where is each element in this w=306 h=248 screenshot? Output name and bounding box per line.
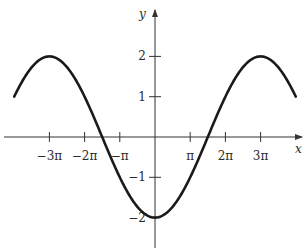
- x-axis-label: x: [295, 142, 302, 156]
- x-tick-label: 2π: [218, 149, 234, 163]
- x-tick-label: −2π: [72, 149, 98, 163]
- y-tick-label: 2: [138, 49, 146, 63]
- x-tick-label: −3π: [37, 149, 63, 163]
- x-tick-label: 3π: [253, 149, 269, 163]
- y-axis-label: y: [138, 7, 146, 21]
- y-tick-label: −1: [128, 170, 146, 184]
- chart-canvas: −3π−2π−ππ2π3π 21−1−2 y x: [0, 0, 306, 248]
- x-tick-label: π: [186, 149, 194, 163]
- y-tick-label: 1: [138, 90, 146, 104]
